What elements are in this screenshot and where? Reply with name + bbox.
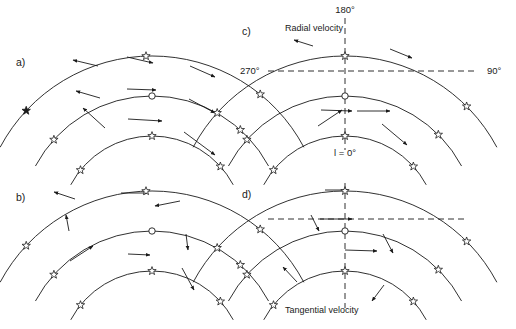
velocity-vector-b-7 <box>182 268 194 290</box>
velocity-vector-c-2 <box>321 110 352 111</box>
sun-marker-b <box>149 228 155 234</box>
panel-label-c: c) <box>242 25 251 37</box>
axis-label-c-0: 180° <box>335 4 355 15</box>
velocity-vector-d-6 <box>372 285 384 301</box>
velocity-vector-d-3 <box>383 234 393 253</box>
velocity-vector-a-2 <box>190 66 215 77</box>
scientific-figure: a)b)c)Radial velocity180°270°90°l = 0°d)… <box>0 0 516 329</box>
velocity-vector-c-5 <box>382 124 407 145</box>
sun-marker-d <box>342 228 348 234</box>
orbit-arc-b-2 <box>71 271 233 320</box>
panel-d <box>193 183 497 320</box>
velocity-vector-b-6 <box>128 254 150 255</box>
star-marker-a-1 <box>142 52 150 60</box>
velocity-vector-b-2 <box>155 201 180 206</box>
panel-b <box>0 187 304 320</box>
panel-label-d: d) <box>242 188 251 200</box>
velocity-vector-a-5 <box>189 99 215 113</box>
figure-labels: a)b)c)Radial velocity180°270°90°l = 0°d)… <box>16 4 502 315</box>
panel-label-a: a) <box>16 56 25 68</box>
velocity-vector-b-4 <box>70 246 93 261</box>
star-marker-a-7 <box>148 132 156 140</box>
velocity-vector-c-1 <box>390 49 412 58</box>
velocity-vector-a-4 <box>127 89 156 90</box>
velocity-vector-a-7 <box>128 119 162 121</box>
velocity-vector-c-4 <box>318 110 342 126</box>
velocity-vector-a-1 <box>127 57 153 63</box>
panel-label-b: b) <box>16 191 25 203</box>
velocity-vector-c-0 <box>294 40 313 46</box>
velocity-vector-a-0 <box>73 60 98 66</box>
velocity-vector-a-6 <box>83 108 105 128</box>
velocity-vector-d-5 <box>283 267 297 282</box>
axis-label-c-3: l = 0° <box>334 147 356 158</box>
figure-geometry <box>0 18 497 320</box>
velocity-vector-b-3 <box>66 215 69 231</box>
panel-c <box>193 18 497 185</box>
sun-marker-c <box>342 93 348 99</box>
star-marker-b-1 <box>142 187 150 195</box>
orbit-arc-a-2 <box>71 136 233 185</box>
velocity-vector-d-1 <box>311 215 319 231</box>
caption-c: Radial velocity <box>285 23 344 33</box>
figure-canvas: a)b)c)Radial velocity180°270°90°l = 0°d)… <box>0 0 516 329</box>
velocity-vector-b-5 <box>186 234 188 250</box>
axis-label-c-1: 270° <box>240 65 260 76</box>
velocity-vector-d-4 <box>345 250 377 251</box>
caption-d: Tangential velocity <box>285 305 359 315</box>
axis-label-c-2: 90° <box>487 65 502 76</box>
star-marker-b-7 <box>148 267 156 275</box>
velocity-vector-b-0 <box>54 192 75 199</box>
sun-marker-a <box>149 93 155 99</box>
velocity-vector-a-3 <box>76 91 100 98</box>
